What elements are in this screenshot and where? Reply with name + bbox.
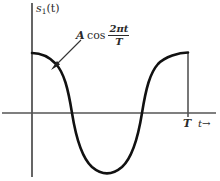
y-axis-label-argument: (t) <box>46 2 59 15</box>
formula-amplitude: A <box>76 30 85 41</box>
x-axis-arrow-icon: → <box>202 118 210 129</box>
formula-fraction: 2πt T <box>108 24 129 47</box>
y-axis-label: s1(t) <box>36 3 59 16</box>
x-axis-label: t→ <box>198 119 210 129</box>
period-tick-label: T <box>183 118 191 129</box>
formula-function: cos <box>87 30 105 41</box>
cosine-waveform-figure: s1(t) T t→ A cos 2πt T <box>0 0 220 181</box>
formula-denominator: T <box>114 36 123 47</box>
formula-numerator: 2πt <box>108 24 129 35</box>
curve-formula-annotation: A cos 2πt T <box>76 24 129 47</box>
